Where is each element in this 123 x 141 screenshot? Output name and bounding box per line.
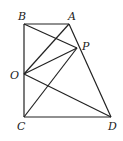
segment-CP bbox=[24, 48, 77, 117]
segment-OP bbox=[24, 48, 77, 74]
label-O: O bbox=[10, 69, 19, 82]
label-B: B bbox=[17, 10, 26, 23]
label-A: A bbox=[67, 10, 76, 23]
label-P: P bbox=[81, 40, 90, 53]
label-C: C bbox=[17, 120, 26, 133]
segment-AD bbox=[69, 24, 111, 117]
segments bbox=[24, 24, 111, 117]
label-D: D bbox=[107, 120, 117, 133]
geometry-diagram: B A P O C D bbox=[0, 0, 123, 141]
segment-OD bbox=[24, 74, 111, 117]
